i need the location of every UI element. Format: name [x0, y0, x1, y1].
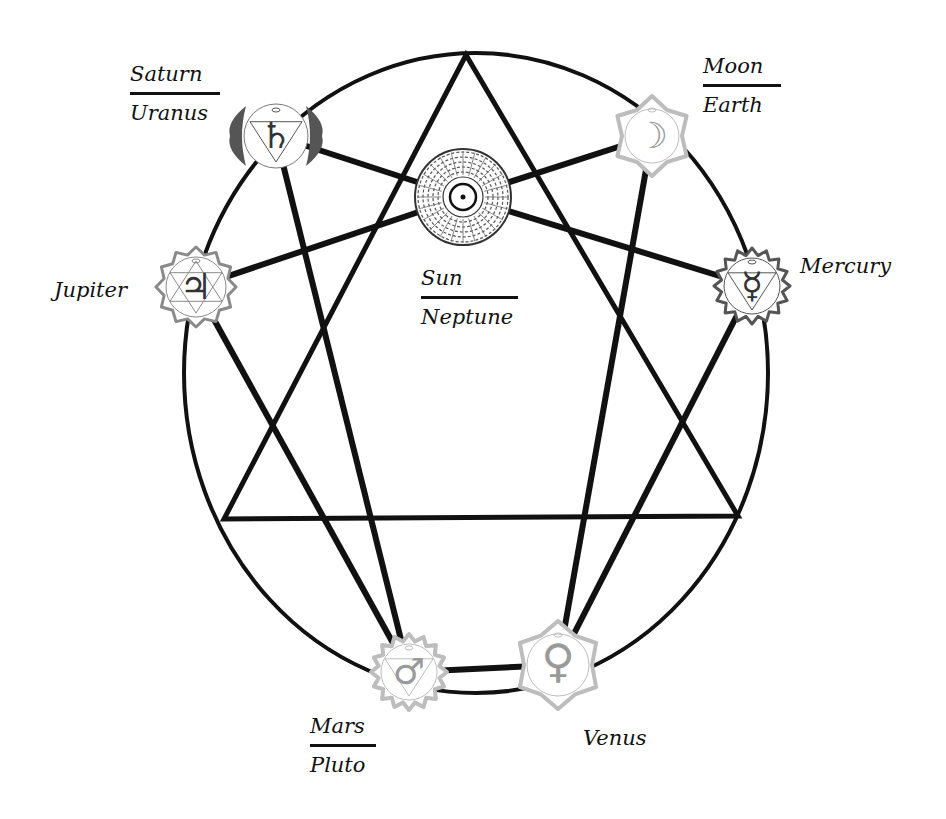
- planet-node-sun: sun-icon: [415, 149, 511, 245]
- label-divider: [421, 296, 518, 299]
- label-saturn: Saturn: [130, 64, 202, 85]
- label-saturn-uranus: Saturn Uranus: [130, 64, 220, 124]
- label-earth: Earth: [703, 95, 763, 116]
- label-sun: Sun: [421, 268, 462, 289]
- saturn-symbol-icon: ♄: [260, 115, 292, 156]
- connection-jupiter-mars: [196, 287, 409, 672]
- planet-node-jupiter: ♃: [156, 247, 236, 327]
- label-moon-earth: Moon Earth: [703, 56, 781, 116]
- label-moon: Moon: [703, 56, 763, 77]
- label-divider: [703, 84, 781, 87]
- planet-node-saturn: ♄: [229, 104, 322, 168]
- moon-symbol-icon: ☽: [636, 115, 668, 156]
- planet-node-mercury: ☿: [714, 248, 790, 324]
- label-pluto: Pluto: [310, 755, 365, 776]
- label-jupiter: Jupiter: [54, 280, 127, 301]
- planet-node-mars: ♂: [371, 634, 447, 710]
- label-uranus: Uranus: [130, 103, 208, 124]
- label-sun-neptune: Sun Neptune: [421, 268, 518, 328]
- label-divider: [130, 92, 220, 95]
- connection-saturn-mars: [276, 136, 409, 672]
- mars-symbol-icon: ♂: [393, 651, 425, 692]
- label-mercury: Mercury: [800, 256, 891, 277]
- label-divider: [310, 744, 376, 747]
- label-mars-pluto: Mars Pluto: [310, 716, 376, 776]
- label-mars: Mars: [310, 716, 365, 737]
- label-neptune: Neptune: [421, 307, 513, 328]
- connection-moon-venus: [558, 136, 652, 665]
- planet-node-venus: ♀: [520, 621, 596, 709]
- mercury-symbol-icon: ☿: [741, 265, 763, 306]
- planet-node-moon: ☽: [617, 96, 686, 176]
- connection-mercury-venus: [558, 286, 752, 665]
- venus-symbol-icon: ♀: [541, 634, 575, 688]
- jupiter-symbol-icon: ♃: [180, 266, 212, 307]
- label-venus: Venus: [583, 728, 647, 749]
